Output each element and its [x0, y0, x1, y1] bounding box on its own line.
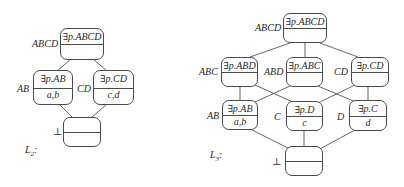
concept-extent: d	[350, 116, 386, 131]
caption-colon: :	[34, 144, 37, 155]
l3-caption: L3:	[210, 149, 222, 163]
l3-node-bottom	[285, 146, 323, 176]
concept-intent: ∃p.AB	[223, 101, 257, 116]
caption-colon: :	[219, 149, 222, 160]
concept-intent	[286, 147, 322, 162]
concept-extent: c	[287, 116, 322, 130]
concept-extent	[352, 72, 388, 86]
concept-extent	[287, 72, 322, 86]
concept-extent: a,b	[34, 88, 72, 105]
concept-intent: ∃p.CD	[352, 58, 388, 73]
l2-node-cd: ∃p.CD c,d	[93, 70, 134, 105]
concept-extent	[61, 44, 103, 59]
l2-node-ab: ∃p.AB a,b	[33, 70, 73, 105]
l3-label-cd: CD	[334, 66, 348, 77]
l2-label-ab: AB	[17, 83, 29, 94]
l3-label-abd: ABD	[264, 66, 283, 77]
concept-extent: a,b	[223, 115, 257, 129]
concept-extent	[64, 132, 100, 146]
l2-node-bottom	[63, 117, 101, 147]
concept-extent	[286, 161, 322, 175]
l3-node-d: ∃p.C d	[349, 100, 387, 131]
concept-intent: ∃p.ABCD	[61, 29, 103, 45]
l2-label-cd: CD	[77, 83, 91, 94]
l3-node-abc: ∃p.ABD	[221, 57, 258, 87]
concept-extent	[222, 72, 257, 86]
l2-label-abcd: ABCD	[32, 38, 58, 49]
concept-intent: ∃p.ABCD	[284, 14, 326, 29]
concept-intent: ∃p.C	[350, 101, 386, 117]
concept-intent: ∃p.ABD	[222, 58, 257, 73]
concept-intent: ∃p.AB	[34, 71, 72, 89]
l3-label-d: D	[337, 111, 344, 122]
concept-intent: ∃p.ABC	[287, 58, 322, 73]
l3-label-abc: ABC	[199, 66, 218, 77]
concept-extent: c,d	[94, 88, 133, 105]
l3-node-abcd: ∃p.ABCD	[283, 13, 327, 43]
concept-extent	[284, 28, 326, 42]
l3-node-ab: ∃p.AB a,b	[222, 100, 258, 130]
l3-node-abd: ∃p.ABC	[286, 57, 323, 87]
concept-intent: ∃p.D	[287, 102, 322, 117]
l3-label-bottom: ⊥	[272, 156, 281, 167]
l2-label-bottom: ⊥	[53, 126, 62, 137]
l3-label-c: C	[274, 111, 281, 122]
l2-caption: L2:	[25, 144, 37, 158]
l3-label-abcd: ABCD	[255, 22, 281, 33]
l3-node-cd: ∃p.CD	[351, 57, 389, 87]
concept-intent	[64, 118, 100, 133]
l3-node-c: ∃p.D c	[286, 101, 323, 131]
l2-node-abcd: ∃p.ABCD	[60, 28, 104, 60]
l3-label-ab: AB	[207, 110, 219, 121]
concept-intent: ∃p.CD	[94, 71, 133, 89]
